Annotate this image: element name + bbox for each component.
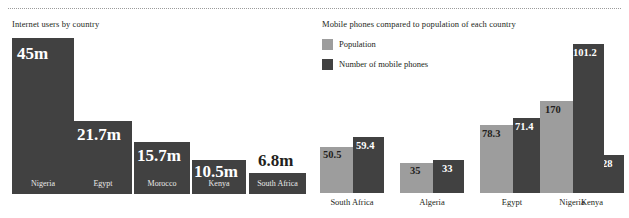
infographic-page: { "theme": { "background": "#ffffff", "d… [0,0,629,218]
bar-value-nigeria: 45m [17,45,48,62]
bar-category-nigeria: Nigeria [12,180,74,188]
bar-category-egypt: Egypt [74,180,132,188]
bar-value-egypt: 21.7m [77,126,121,143]
bar-category-morocco: Morocco [134,180,190,188]
bar-value-population-nigeria: 170 [545,105,561,116]
internet-users-panel: Internet users by country 45m Nigeria 21… [0,0,312,218]
bar-mobile-nigeria [573,44,604,193]
bar-value-kenya: 10.5m [194,163,238,180]
bar-value-south-africa: 6.8m [258,152,293,169]
bar-category-south-africa: South Africa [249,180,306,188]
mobile-phones-panel: Mobile phones compared to population of … [312,0,629,218]
bar-category-nigeria: Nigeria [540,198,604,207]
bar-value-mobile-nigeria: 101.2 [573,48,597,59]
bar-category-kenya: Kenya [192,180,246,188]
bar-value-morocco: 15.7m [137,147,181,164]
internet-users-bar-chart: 45m Nigeria 21.7m Egypt 15.7m Morocco 10… [0,0,312,218]
mobile-phones-nigeria-group: 170 101.2 Nigeria [312,0,629,218]
